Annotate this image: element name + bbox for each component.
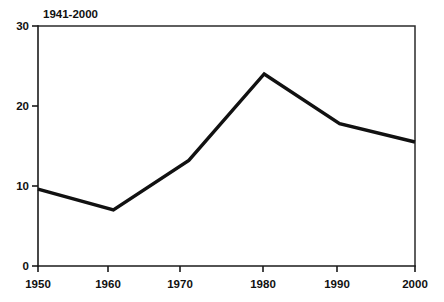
data-series-line <box>38 74 415 210</box>
chart-title: 1941-2000 <box>43 8 98 20</box>
chart-canvas: 30 20 10 0 1950 1960 1970 1980 1990 2000… <box>0 0 444 302</box>
x-tick-label-2000: 2000 <box>402 278 428 290</box>
y-tick-label-10: 10 <box>16 180 29 192</box>
x-tick-label-1960: 1960 <box>95 278 121 290</box>
y-tick-label-30: 30 <box>16 20 29 32</box>
y-tick-label-20: 20 <box>16 100 29 112</box>
plot-frame <box>38 26 415 266</box>
x-tick-label-1950: 1950 <box>25 278 51 290</box>
x-tick-label-1990: 1990 <box>324 278 350 290</box>
x-tick-label-1980: 1980 <box>250 278 276 290</box>
y-tick-label-0: 0 <box>23 260 29 272</box>
line-chart-figure: 30 20 10 0 1950 1960 1970 1980 1990 2000… <box>0 0 444 302</box>
x-tick-label-1970: 1970 <box>167 278 193 290</box>
